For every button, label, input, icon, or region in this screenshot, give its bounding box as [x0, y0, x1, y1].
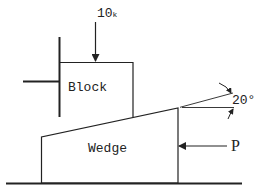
angle-indicator: [180, 83, 234, 119]
wall-support: [23, 37, 60, 117]
angle-label: 20°: [232, 93, 255, 108]
wedge-block-diagram: Block Wedge 10k P 20°: [0, 0, 264, 193]
load-label: 10k: [97, 6, 118, 21]
push-force-label: P: [231, 137, 240, 154]
wedge-label: Wedge: [88, 141, 127, 156]
block-label: Block: [68, 80, 107, 95]
